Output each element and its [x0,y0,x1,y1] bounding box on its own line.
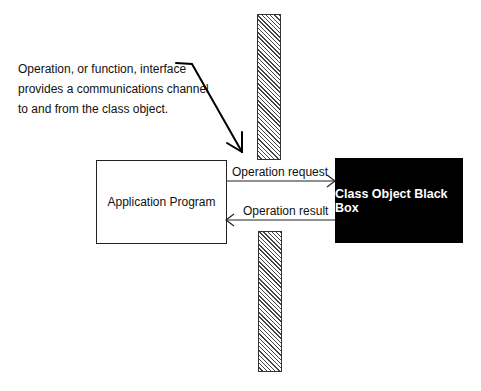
result-arrow-icon [226,214,335,226]
request-arrow-icon [226,175,335,187]
pointer-arrow-icon [176,63,242,152]
diagram-connectors [0,0,481,391]
